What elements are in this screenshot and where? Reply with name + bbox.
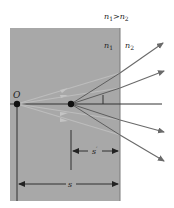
object-label: O [13,90,21,100]
outgoing-rays [120,43,164,161]
condition-label: n1>n2 [104,12,129,22]
apparent-depth-diagram: O n1>n2 n1 n2 s′ s [0,0,174,208]
object-point [14,101,20,107]
image-point [68,101,74,107]
medium-2-label: n2 [125,41,134,51]
object-distance-label: s [68,180,72,189]
